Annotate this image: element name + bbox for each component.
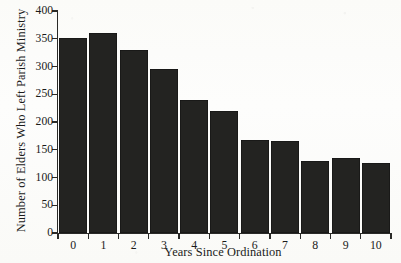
y-tick-label: 100 (36, 172, 53, 184)
x-tick-mark (300, 233, 301, 239)
y-tick-label: 250 (36, 88, 53, 100)
y-axis-title: Number of Elders Who Left Parish Ministr… (14, 6, 29, 236)
y-tick-label: 400 (36, 5, 53, 17)
bar (332, 158, 360, 233)
x-tick-mark (330, 233, 331, 239)
y-tick-label: 0 (47, 227, 53, 239)
bar (59, 38, 87, 233)
y-tick-label: 50 (41, 199, 53, 211)
bar (89, 33, 117, 233)
y-tick-label: 300 (36, 61, 53, 73)
bar (180, 100, 208, 233)
bar (271, 141, 299, 233)
x-axis-line (57, 233, 391, 234)
bar (362, 163, 390, 233)
x-tick-mark (88, 233, 89, 239)
bar (241, 140, 269, 233)
x-tick-mark (360, 233, 361, 239)
bar-chart-figure: Number of Elders Who Left Parish Ministr… (0, 0, 401, 263)
x-tick-mark (269, 233, 270, 239)
y-tick-label: 200 (36, 116, 53, 128)
x-tick-mark (178, 233, 179, 239)
x-tick-mark (209, 233, 210, 239)
y-tick-label: 150 (36, 144, 53, 156)
bar (210, 111, 238, 233)
bar (301, 161, 329, 233)
x-tick-mark (118, 233, 119, 239)
bar (150, 69, 178, 233)
x-tick-mark (57, 233, 58, 239)
y-tick-label: 350 (36, 33, 53, 45)
x-tick-mark (390, 233, 391, 239)
plot-area: 050100150200250300350400 012345678910 (58, 11, 391, 233)
bar (120, 50, 148, 233)
x-axis-title: Years Since Ordination (58, 245, 388, 260)
x-tick-mark (148, 233, 149, 239)
x-tick-mark (239, 233, 240, 239)
